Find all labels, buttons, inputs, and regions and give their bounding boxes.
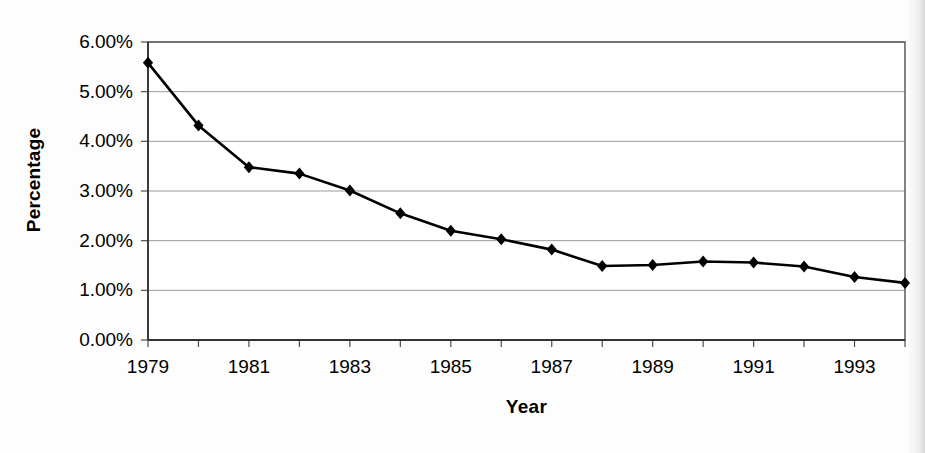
x-axis-title: Year (148, 396, 905, 418)
y-tick-label: 4.00% (53, 130, 133, 152)
x-tick-label: 1989 (608, 356, 698, 378)
x-tick-label: 1991 (709, 356, 799, 378)
chart-container: Percentage 0.00%1.00%2.00%3.00%4.00%5.00… (0, 0, 925, 453)
x-tick-marks-group (148, 340, 905, 347)
x-tick-label: 1993 (810, 356, 900, 378)
y-tick-label: 3.00% (53, 180, 133, 202)
chart-plot-svg (0, 0, 925, 453)
y-tick-label: 0.00% (53, 329, 133, 351)
y-tick-label: 6.00% (53, 31, 133, 53)
y-tick-label: 5.00% (53, 81, 133, 103)
y-tick-label: 1.00% (53, 279, 133, 301)
x-tick-label: 1981 (204, 356, 294, 378)
x-tick-label: 1987 (507, 356, 597, 378)
y-tick-label: 2.00% (53, 230, 133, 252)
x-tick-label: 1979 (103, 356, 193, 378)
y-tick-marks-group (141, 42, 148, 340)
x-tick-label: 1983 (305, 356, 395, 378)
x-tick-label: 1985 (406, 356, 496, 378)
